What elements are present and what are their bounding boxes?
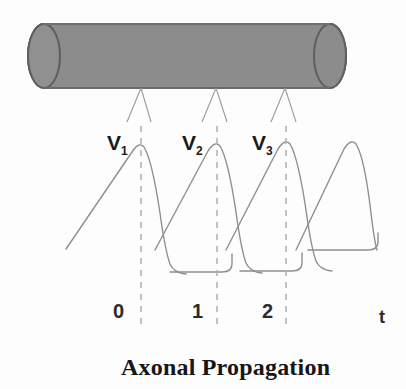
figure-canvas <box>0 0 406 389</box>
potential-label-v3-letter: V <box>252 131 266 154</box>
figure-caption: Axonal Propagation <box>121 354 330 381</box>
axonal-propagation-figure: V1 V2 V3 0 1 2 t Axonal Propagation <box>0 0 406 389</box>
tick-label-0: 0 <box>113 300 124 323</box>
potential-label-v3: V3 <box>252 131 273 155</box>
potential-label-v1-letter: V <box>107 131 121 154</box>
waveform-v2-tail <box>170 254 232 272</box>
connector-site1-left <box>127 88 141 122</box>
waveform-v4 <box>296 142 377 250</box>
potential-label-v3-subscript: 3 <box>266 144 273 158</box>
axis-label-time: t <box>379 307 385 328</box>
potential-label-v2-letter: V <box>182 131 196 154</box>
potential-label-v2: V2 <box>182 131 203 155</box>
connector-site3-left <box>271 88 285 122</box>
connector-site3-right <box>285 88 296 122</box>
axon-body <box>28 24 346 88</box>
action-potential-waveforms <box>66 142 378 274</box>
waveform-v1 <box>66 145 186 274</box>
tick-label-1: 1 <box>192 300 203 323</box>
potential-label-v2-subscript: 2 <box>196 144 203 158</box>
axon-left-cap <box>28 24 60 88</box>
potential-label-v1-subscript: 1 <box>121 144 128 158</box>
site-connectors <box>127 88 296 122</box>
waveform-v4-tail <box>308 233 378 250</box>
axon-cylinder <box>28 24 346 88</box>
connector-site1-right <box>141 88 151 122</box>
tick-label-2: 2 <box>262 300 273 323</box>
connector-site2-right <box>216 88 227 122</box>
potential-label-v1: V1 <box>107 131 128 155</box>
axon-right-cap <box>314 24 346 88</box>
waveform-v2 <box>155 144 262 273</box>
connector-site2-left <box>202 88 216 122</box>
